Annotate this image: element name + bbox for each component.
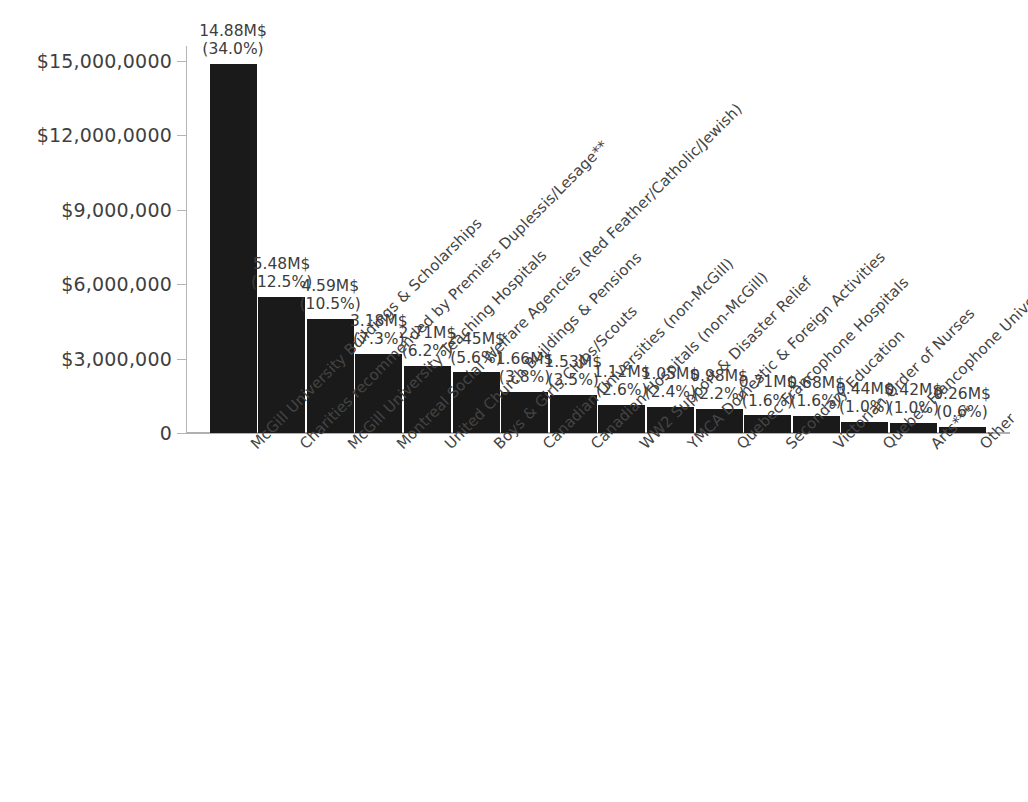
- y-axis-tick-label: $3,000,000: [61, 348, 172, 370]
- x-axis-category-label: WW2 Support & Disaster Relief: [636, 440, 649, 453]
- x-axis-category-label-group: McGill University Buildings & Scholarshi…: [186, 434, 1010, 794]
- bar-value-label: 14.88M$(34.0%): [183, 22, 283, 59]
- bar-value-amount: 14.88M$: [183, 22, 283, 40]
- bar-value-amount: 4.59M$: [280, 277, 380, 295]
- y-axis-tick-label: 0: [160, 422, 172, 444]
- x-axis-category-label: Secondary Education: [782, 440, 795, 453]
- x-axis-category-label: Victorian Order of Nurses: [830, 440, 843, 453]
- bar-value-percent: (10.5%): [280, 295, 380, 313]
- y-axis-tick-label: $12,000,0000: [37, 124, 172, 146]
- y-axis-tick-label: $9,000,000: [61, 199, 172, 221]
- x-axis-category-label: McGill University Teaching Hospitals: [344, 440, 357, 453]
- bar-value-label: 4.59M$(10.5%): [280, 277, 380, 314]
- bar-value-amount: 5.48M$: [232, 255, 332, 273]
- x-axis-category-label: Quebec Francophone Hospitals: [733, 440, 746, 453]
- x-axis-category-label: Charities recommended by Premiers Duples…: [296, 440, 309, 453]
- bar-value-percent: (34.0%): [183, 40, 283, 58]
- x-axis-category-label: Montreal Social Welfare Agencies (Red Fe…: [393, 440, 406, 453]
- x-axis-category-label: Canadian Universities (non-McGill): [539, 440, 552, 453]
- bar: [210, 64, 257, 433]
- y-axis-tick-label: $15,000,0000: [37, 50, 172, 72]
- x-axis-category-label: Quebec Francophone Universities: [879, 440, 892, 453]
- x-axis-category-label: United Church Buildings & Pensions: [441, 440, 454, 453]
- y-axis-tick-label: $6,000,000: [61, 273, 172, 295]
- x-axis-category-label: YMCA Domestic & Foreign Activities: [684, 440, 697, 453]
- x-axis-category-label: Boys & Girls Clubs/Scouts: [490, 440, 503, 453]
- x-axis-category-label: Canadian Hospitals (non-McGill): [587, 440, 600, 453]
- x-axis-category-label: Other: [976, 440, 989, 453]
- bar-chart: $15,000,0000$12,000,0000$9,000,000$6,000…: [0, 0, 1028, 802]
- x-axis-category-label: McGill University Buildings & Scholarshi…: [247, 440, 260, 453]
- x-axis-category-label: Arts***: [927, 440, 940, 453]
